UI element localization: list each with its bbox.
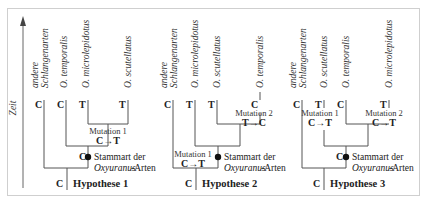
root-base: C (313, 178, 320, 189)
mutation-change: C→T (308, 117, 332, 128)
ancestor-node-dot (215, 154, 221, 160)
phylogeny-diagram: Zeit andere Schlangenarten O. temporalis… (0, 0, 428, 202)
root-base: C (185, 178, 192, 189)
node-label: Stammart der (94, 152, 146, 162)
taxon-label: Schlangenarten (298, 28, 308, 88)
mutation-change: C→T (372, 117, 396, 128)
base-label: C (293, 99, 300, 110)
taxon-label: O. microlepidotus (81, 19, 91, 88)
ancestor-node-dot (343, 154, 349, 160)
axis-label: Zeit (8, 100, 18, 115)
mutation-change: C→T (96, 135, 120, 146)
taxon-label: andere (30, 62, 40, 88)
taxon-label: O. scutellatus (319, 35, 329, 88)
node-label: Stammart der (224, 152, 276, 162)
node-base: C (79, 151, 86, 162)
taxon-label: Schlangenarten (169, 28, 179, 88)
node-label-suffix: -Arten (261, 163, 286, 173)
hypothesis-title: Hypothese 2 (202, 178, 257, 189)
base-label: C (57, 99, 64, 110)
taxon-label: andere (159, 62, 169, 88)
mutation-change: T→C (242, 117, 266, 128)
taxon-label: andere (288, 62, 298, 88)
arrowhead-icon (20, 16, 26, 26)
base-label: C (164, 99, 171, 110)
hypothesis-2-labels: andere Schlangenarten O. microlepidotus … (159, 19, 286, 189)
taxon-label: O. temporalis (59, 35, 69, 88)
hypothesis-3-labels: andere Schlangenarten O. scutellatus O. … (288, 19, 414, 189)
hypothesis-title: Hypothese 1 (73, 178, 128, 189)
taxon-label: O. microlepidotus (384, 19, 394, 88)
time-axis: Zeit (8, 16, 26, 188)
base-label: T (186, 99, 193, 110)
taxon-label: O. scutellatus (123, 35, 133, 88)
hypothesis-1-labels: andere Schlangenarten O. temporalis O. m… (30, 19, 156, 189)
node-label-suffix: -Arten (131, 163, 156, 173)
taxon-label: O. temporalis (341, 35, 351, 88)
node-label: Stammart der (352, 152, 404, 162)
base-label: C (35, 99, 42, 110)
mutation-change: C→T (181, 158, 205, 169)
node-label-suffix: -Arten (389, 163, 414, 173)
base-label: T (119, 99, 126, 110)
node-label-italic: Oxyuranus (94, 163, 136, 173)
taxon-label: O. microlepidotus (190, 19, 200, 88)
root-base: C (56, 178, 63, 189)
base-label: T (208, 99, 215, 110)
node-base: C (336, 151, 343, 162)
taxon-label: Schlangenarten (40, 28, 50, 88)
hypothesis-title: Hypothese 3 (330, 178, 385, 189)
taxon-label: O. scutellatus (212, 35, 222, 88)
node-label-italic: Oxyuranus (352, 163, 394, 173)
taxon-label: O. temporalis (255, 35, 265, 88)
base-label: T (79, 99, 86, 110)
node-label-italic: Oxyuranus (224, 163, 266, 173)
